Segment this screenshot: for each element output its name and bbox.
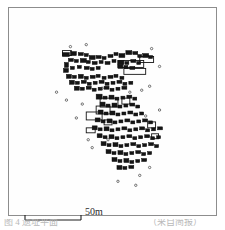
- structure-footprint: [118, 64, 123, 68]
- caption-strip: 图 4 遗址平面 （采自简报）: [0, 219, 225, 230]
- structure-footprint: [122, 112, 126, 115]
- structure-footprint: [140, 127, 145, 130]
- structure-footprint: [84, 76, 88, 79]
- structure-footprint: [105, 61, 110, 64]
- structure-footprint: [143, 54, 149, 58]
- structure-footprint: [146, 129, 150, 132]
- structure-footprint: [122, 127, 127, 130]
- structure-footprint: [126, 51, 132, 55]
- structure-footprint: [136, 160, 140, 163]
- structure-footprint: [157, 136, 161, 139]
- structure-footprint: [70, 66, 74, 69]
- small-feature-dot: [91, 146, 93, 148]
- structure-footprint: [136, 105, 140, 108]
- structure-footprint: [118, 151, 123, 155]
- structure-footprint: [93, 81, 97, 84]
- structure-footprint: [119, 120, 123, 123]
- structure-footprint: [110, 111, 115, 115]
- structure-footprint: [109, 95, 114, 99]
- structure-footprint: [98, 87, 102, 90]
- structure-footprint: [104, 112, 108, 115]
- structure-footprint: [92, 88, 96, 91]
- structure-footprint: [125, 61, 129, 64]
- small-feature-dot: [158, 65, 160, 67]
- structure-footprint: [92, 126, 97, 130]
- structure-footprint: [116, 128, 120, 131]
- structure-footprint: [66, 74, 71, 78]
- structure-footprint: [158, 127, 163, 130]
- structure-footprint: [101, 120, 105, 123]
- structure-footprint: [113, 143, 118, 147]
- structure-footprint: [124, 153, 128, 156]
- structure-footprint: [149, 56, 153, 59]
- structure-footprint: [116, 113, 120, 116]
- small-feature-dot: [150, 47, 152, 49]
- small-feature-dot: [158, 109, 160, 111]
- structure-footprint: [129, 81, 133, 84]
- structure-footprint: [122, 86, 127, 89]
- structure-footprint: [70, 52, 76, 56]
- structure-footprint: [140, 112, 144, 115]
- structure-footprint: [100, 102, 105, 106]
- structure-footprint: [115, 137, 119, 140]
- caption-left-fragment: 图 4 遗址平面: [4, 219, 58, 228]
- small-feature-dot: [139, 174, 141, 176]
- structure-footprint: [112, 152, 116, 155]
- structure-footprint: [119, 54, 125, 58]
- structure-footprint: [138, 55, 142, 58]
- structure-footprint: [72, 75, 76, 78]
- structure-footprint: [124, 159, 129, 163]
- structure-footprint: [78, 53, 83, 56]
- structure-footprint: [108, 55, 113, 58]
- structure-footprint: [125, 144, 129, 147]
- structure-footprint: [78, 74, 83, 78]
- structure-footprint: [121, 96, 125, 99]
- site-plan-figure: 50m 图 4 遗址平面 （采自简报）: [0, 0, 225, 230]
- small-feature-dot: [135, 184, 137, 186]
- caption-right-fragment: （采自简报）: [148, 219, 202, 228]
- structure-footprint: [139, 136, 143, 139]
- small-feature-dot: [117, 180, 119, 182]
- structure-footprint: [133, 137, 137, 140]
- structure-footprint: [118, 160, 122, 163]
- structure-footprint: [81, 80, 86, 83]
- small-feature-dot: [129, 91, 131, 93]
- structure-footprint: [130, 161, 134, 164]
- structure-footprint: [129, 165, 134, 168]
- structure-footprint: [86, 60, 90, 63]
- structure-footprint: [104, 86, 109, 89]
- structure-footprint: [102, 76, 106, 79]
- structure-footprint: [125, 119, 130, 122]
- structure-footprint: [148, 152, 152, 155]
- structure-footprint: [96, 74, 100, 77]
- scale-bar-label: 50m: [85, 206, 103, 217]
- structure-footprint: [128, 111, 133, 114]
- structure-footprint: [151, 137, 155, 140]
- small-feature-dot: [148, 166, 150, 168]
- structure-footprint: [69, 80, 74, 84]
- structure-footprint: [96, 66, 100, 69]
- structure-footprint: [106, 150, 111, 154]
- structure-footprint: [116, 87, 120, 90]
- structure-footprint: [131, 121, 135, 124]
- structure-footprint: [119, 145, 123, 148]
- small-feature-dot: [65, 99, 67, 101]
- structure-footprint: [134, 128, 138, 131]
- structure-footprint: [104, 127, 109, 131]
- structure-footprint: [124, 104, 128, 107]
- structure-footprint: [86, 86, 91, 89]
- structure-footprint: [108, 75, 113, 78]
- site-map-drawing: [9, 8, 216, 215]
- structure-footprint: [75, 81, 79, 84]
- structure-footprint: [130, 66, 135, 69]
- structure-footprint: [90, 75, 95, 78]
- structure-footprint: [130, 152, 134, 155]
- structure-footprint: [110, 129, 114, 132]
- structure-footprint: [123, 166, 127, 169]
- structure-footprint: [120, 76, 124, 79]
- structure-footprint: [112, 103, 117, 107]
- structure-footprint: [134, 113, 138, 116]
- structure-footprint: [96, 94, 102, 99]
- structure-footprint: [113, 121, 117, 124]
- structure-footprint: [133, 97, 137, 100]
